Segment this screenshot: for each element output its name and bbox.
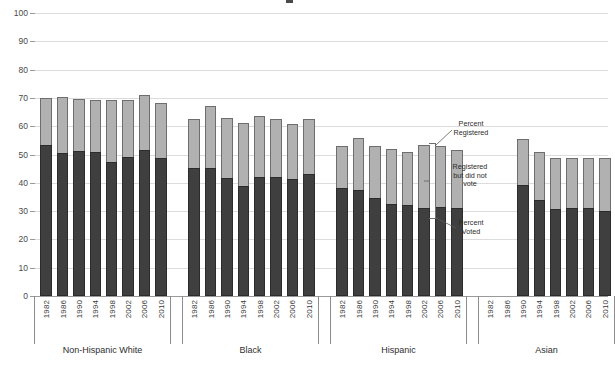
- bar-non-hispanic-white-2002: [122, 100, 134, 296]
- segment-voted: [238, 186, 250, 296]
- bar-asian-2006: [583, 158, 595, 296]
- bar-asian-2002: [566, 158, 578, 296]
- segment-voted: [254, 177, 266, 296]
- bar-black-1998: [254, 116, 266, 296]
- bar-black-2006: [287, 124, 299, 296]
- segment-voted: [270, 177, 282, 296]
- bar-non-hispanic-white-1990: [73, 99, 85, 296]
- y-tick-label-10: 10: [2, 264, 28, 272]
- segment-voted: [40, 145, 52, 296]
- y-tick-label-70: 70: [2, 94, 28, 102]
- y-tick-label-80: 80: [2, 66, 28, 74]
- bar-hispanic-1986: [353, 138, 365, 296]
- y-tick-label-30: 30: [2, 207, 28, 215]
- segment-voted: [517, 185, 529, 297]
- bar-hispanic-1994: [386, 149, 398, 296]
- bars-layer: [34, 13, 608, 296]
- segment-voted: [402, 205, 414, 296]
- annotation-registered-but-did-not-vote: Registered but did not vote: [441, 163, 499, 189]
- segment-voted: [386, 204, 398, 296]
- segment-voted: [599, 211, 611, 296]
- bar-non-hispanic-white-1982: [40, 98, 52, 296]
- bar-black-2002: [270, 119, 282, 296]
- y-tick-label-50: 50: [2, 151, 28, 159]
- bar-asian-1998: [550, 158, 562, 296]
- x-axis: 19821986199019941998200220062010Non-Hisp…: [34, 296, 608, 367]
- group-bracket-black: [182, 296, 319, 344]
- y-tick-label-90: 90: [2, 37, 28, 45]
- segment-voted: [57, 153, 69, 296]
- y-tick-label-100: 100: [2, 9, 28, 17]
- bar-non-hispanic-white-2006: [139, 95, 151, 296]
- segment-voted: [583, 208, 595, 296]
- segment-voted: [155, 158, 167, 296]
- bar-non-hispanic-white-1998: [106, 100, 118, 296]
- bar-hispanic-1982: [336, 146, 348, 296]
- segment-voted: [90, 152, 102, 296]
- segment-voted: [550, 209, 562, 296]
- segment-voted: [566, 208, 578, 296]
- segment-voted: [106, 162, 118, 296]
- bar-asian-1990: [517, 139, 529, 296]
- group-bracket-non-hispanic-white: [34, 296, 171, 344]
- segment-voted: [205, 168, 217, 296]
- bar-black-1994: [238, 123, 250, 296]
- y-tick-label-20: 20: [2, 235, 28, 243]
- segment-voted: [221, 178, 233, 296]
- bar-asian-2010: [599, 158, 611, 296]
- segment-voted: [73, 151, 85, 296]
- segment-voted: [418, 208, 430, 296]
- y-tick-label-40: 40: [2, 179, 28, 187]
- group-bracket-hispanic: [330, 296, 467, 344]
- bar-black-1986: [205, 106, 217, 296]
- group-label-hispanic: Hispanic: [330, 345, 467, 355]
- group-label-asian: Asian: [478, 345, 615, 355]
- bar-black-1990: [221, 118, 233, 296]
- cropped-title-mark: [286, 0, 293, 3]
- bar-non-hispanic-white-1986: [57, 97, 69, 296]
- bar-black-2010: [303, 119, 315, 296]
- segment-voted: [336, 188, 348, 296]
- bar-non-hispanic-white-1994: [90, 100, 102, 296]
- annotation-brace: [429, 143, 436, 219]
- group-label-non-hispanic-white: Non-Hispanic White: [34, 345, 171, 355]
- bar-hispanic-1998: [402, 152, 414, 296]
- annotation-percent-registered: Percent Registered: [444, 120, 498, 137]
- bar-asian-1994: [534, 152, 546, 296]
- bar-non-hispanic-white-2010: [155, 103, 167, 296]
- segment-voted: [122, 157, 134, 296]
- y-tick-label-0: 0: [2, 292, 28, 300]
- segment-voted: [534, 200, 546, 296]
- bar-black-1982: [188, 119, 200, 296]
- bar-hispanic-1990: [369, 146, 381, 296]
- segment-voted: [188, 168, 200, 296]
- group-label-black: Black: [182, 345, 319, 355]
- segment-voted: [353, 190, 365, 296]
- segment-voted: [303, 174, 315, 296]
- annotation-percent-voted: Percent Voted: [444, 219, 498, 236]
- y-tick-label-60: 60: [2, 122, 28, 130]
- segment-voted: [369, 198, 381, 296]
- group-bracket-asian: [478, 296, 615, 344]
- segment-voted: [139, 150, 151, 296]
- segment-voted: [287, 179, 299, 296]
